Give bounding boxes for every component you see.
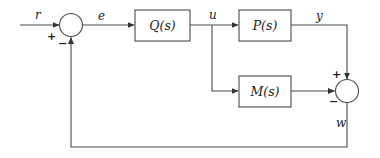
branch-u-to-m-line (212, 25, 238, 91)
block-m-label: M(s) (250, 84, 280, 99)
summing-junction-1 (60, 14, 83, 37)
signal-y-label: y (315, 9, 323, 23)
sum1-minus-sign: − (58, 37, 67, 50)
signal-r-label: r (35, 8, 42, 22)
signal-u-label: u (209, 8, 217, 22)
signal-w-label: w (336, 116, 347, 130)
sum2-plus-sign: + (332, 68, 341, 81)
signal-e-label: e (98, 9, 105, 23)
block-p-label: P(s) (252, 18, 278, 33)
sum1-plus-sign: + (47, 30, 56, 43)
feedback-w-line (71, 38, 347, 148)
block-q-label: Q(s) (149, 18, 176, 33)
summing-junction-2 (336, 80, 359, 103)
block-diagram: r + − e Q(s) u P(s) M(s) y + − w (0, 0, 380, 158)
